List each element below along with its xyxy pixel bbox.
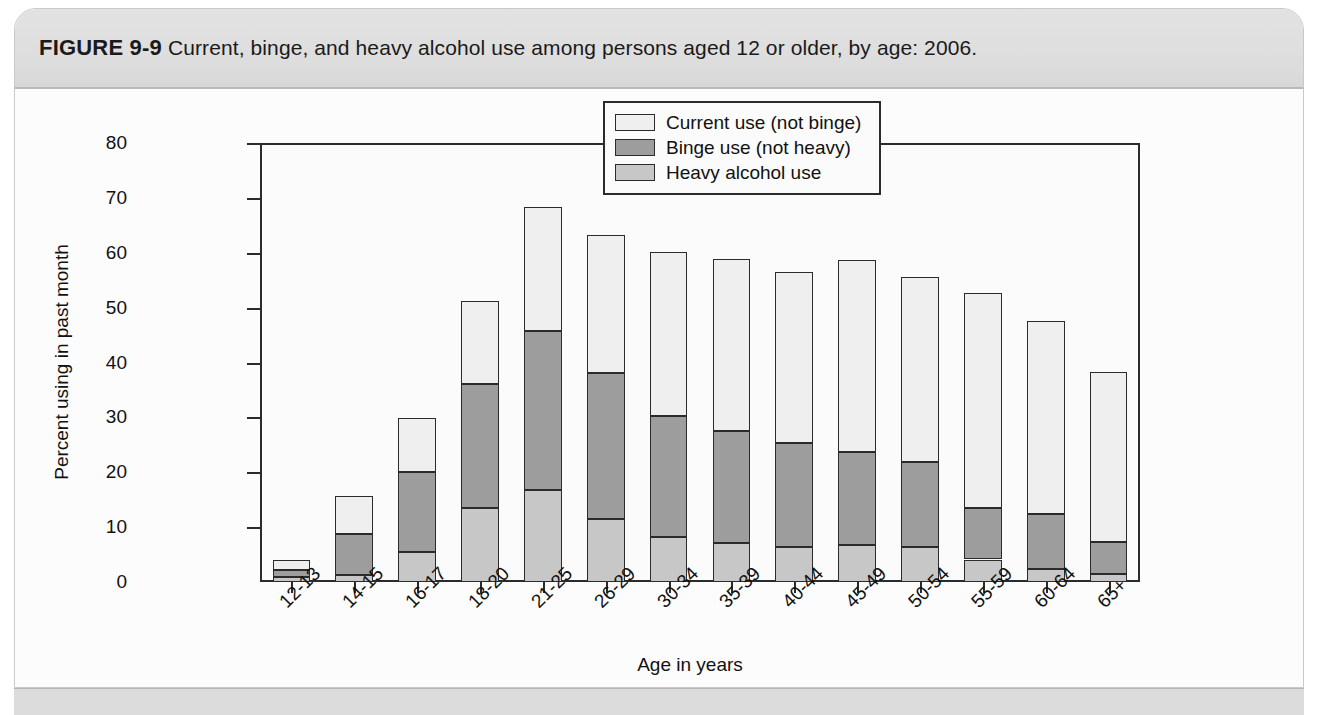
bar-segment-current [964, 293, 1002, 508]
bar-segment-binge [1090, 542, 1128, 574]
y-tick-mark [247, 527, 260, 529]
y-tick-label: 10 [67, 516, 127, 538]
y-tick-mark [247, 253, 260, 255]
chart-plot-area: Percent using in past month 010203040506… [15, 89, 1304, 688]
bar-segment-binge [964, 508, 1002, 560]
bar-segment-current [1090, 372, 1128, 543]
figure-caption: FIGURE 9-9 Current, binge, and heavy alc… [39, 35, 977, 61]
y-tick-label: 70 [67, 187, 127, 209]
bar-stack [1027, 143, 1065, 582]
bar-segment-current [650, 252, 688, 416]
y-tick-label: 50 [67, 297, 127, 319]
bar-stack [775, 143, 813, 582]
bar-segment-current [461, 301, 499, 384]
bar-stack [901, 143, 939, 582]
bar-stack [713, 143, 751, 582]
bar-stack [461, 143, 499, 582]
bar-stack [1090, 143, 1128, 582]
bar-stack [964, 143, 1002, 582]
bar-segment-binge [524, 331, 562, 491]
legend-item: Binge use (not heavy) [615, 135, 869, 160]
figure-card: FIGURE 9-9 Current, binge, and heavy alc… [14, 8, 1304, 688]
y-tick-label: 30 [67, 406, 127, 428]
legend-label: Heavy alcohol use [666, 162, 821, 184]
y-tick-label: 40 [67, 352, 127, 374]
bar-stack [273, 143, 311, 582]
bar-segment-binge [587, 373, 625, 520]
bar-stack [838, 143, 876, 582]
bar-segment-binge [775, 443, 813, 548]
bar-segment-current [1027, 321, 1065, 514]
figure-number: FIGURE 9-9 [39, 35, 162, 60]
bar-segment-current [335, 496, 373, 534]
x-axis-title: Age in years [245, 654, 1135, 676]
bar-segment-current [901, 277, 939, 462]
bar-stack [398, 143, 436, 582]
chart-axes-frame [260, 143, 1140, 582]
legend-item: Current use (not binge) [615, 110, 869, 135]
figure-header: FIGURE 9-9 Current, binge, and heavy alc… [15, 9, 1303, 89]
bar-stack [650, 143, 688, 582]
figure-body: Percent using in past month 010203040506… [15, 89, 1303, 688]
y-tick-mark [247, 143, 260, 145]
y-tick-mark [247, 363, 260, 365]
y-tick-label: 0 [67, 571, 127, 593]
bar-segment-current [713, 259, 751, 431]
bar-segment-current [398, 418, 436, 472]
bar-segment-binge [1027, 514, 1065, 569]
y-tick-label: 20 [67, 461, 127, 483]
bar-segment-current [838, 260, 876, 452]
bar-stack [587, 143, 625, 582]
bar-segment-binge [398, 472, 436, 552]
figure-caption-text: Current, binge, and heavy alcohol use am… [168, 36, 977, 59]
y-tick-label: 60 [67, 242, 127, 264]
bar-segment-binge [901, 462, 939, 548]
bar-segment-current [775, 272, 813, 443]
legend-swatch [615, 114, 655, 131]
y-tick-mark [247, 417, 260, 419]
bar-stack [335, 143, 373, 582]
y-tick-mark [247, 198, 260, 200]
legend-item: Heavy alcohol use [615, 160, 869, 185]
bar-segment-binge [713, 431, 751, 543]
bar-segment-binge [650, 416, 688, 537]
chart-legend: Current use (not binge)Binge use (not he… [603, 101, 881, 195]
legend-label: Current use (not binge) [666, 112, 861, 134]
page-footer-band [14, 688, 1304, 715]
bar-segment-current [524, 207, 562, 330]
y-tick-mark [247, 472, 260, 474]
bar-segment-binge [461, 384, 499, 508]
bar-segment-current [587, 235, 625, 373]
legend-label: Binge use (not heavy) [666, 137, 851, 159]
bar-segment-binge [838, 452, 876, 544]
y-tick-label: 80 [67, 132, 127, 154]
y-tick-mark [247, 308, 260, 310]
bar-stack [524, 143, 562, 582]
legend-swatch [615, 164, 655, 181]
legend-swatch [615, 139, 655, 156]
